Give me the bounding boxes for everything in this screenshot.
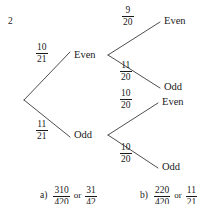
- answer-a-fraction-2: 31 42: [85, 186, 97, 204]
- node-label-odd-odd: Odd: [162, 162, 180, 173]
- fraction-numerator: 9: [122, 6, 134, 17]
- node-label-odd-level1: Odd: [74, 130, 92, 141]
- fraction-denominator: 20: [120, 72, 132, 82]
- fraction-denominator: 420: [154, 197, 170, 204]
- fraction-denominator: 20: [122, 17, 134, 27]
- answer-a: a) 310 420 or 31 42: [40, 186, 97, 204]
- fraction-numerator: 11: [120, 61, 132, 72]
- node-label-odd-even: Even: [162, 97, 184, 108]
- fraction-denominator: 21: [36, 54, 48, 64]
- tree-branch-lines: [0, 0, 220, 204]
- answer-b-tag: b): [140, 186, 148, 201]
- answer-b-fraction-2: 11 21: [186, 186, 198, 204]
- node-label-even-odd: Odd: [164, 82, 182, 93]
- branch-odd-odd: [108, 135, 158, 168]
- answer-a-tag: a): [40, 186, 47, 201]
- probability-tree-page: 2 Even Odd 10 21 11 21 Even Odd Even Odd…: [0, 0, 220, 204]
- branch-even-odd: [108, 55, 160, 88]
- fraction-numerator: 11: [186, 186, 198, 197]
- probability-root-even: 10 21: [36, 43, 48, 65]
- fraction-numerator: 10: [120, 89, 132, 100]
- probability-odd-even: 10 20: [120, 89, 132, 111]
- fraction-denominator: 42: [85, 197, 97, 204]
- answer-b-connector: or: [174, 186, 182, 200]
- branch-even-even: [108, 22, 160, 55]
- fraction-numerator: 10: [36, 43, 48, 54]
- fraction-denominator: 420: [53, 197, 69, 204]
- probability-even-even: 9 20: [122, 6, 134, 28]
- fraction-numerator: 310: [53, 186, 69, 197]
- answer-b: b) 220 420 or 11 21: [140, 186, 197, 204]
- node-label-even-even: Even: [164, 16, 186, 27]
- fraction-denominator: 20: [120, 154, 132, 164]
- answer-a-connector: or: [74, 186, 82, 200]
- branch-odd-even: [108, 103, 158, 135]
- answer-a-fraction-1: 310 420: [53, 186, 69, 204]
- fraction-numerator: 11: [36, 120, 48, 131]
- fraction-numerator: 10: [120, 143, 132, 154]
- node-label-even-level1: Even: [74, 50, 96, 61]
- probability-root-odd: 11 21: [36, 120, 48, 142]
- probability-odd-odd: 10 20: [120, 143, 132, 165]
- fraction-numerator: 31: [85, 186, 97, 197]
- fraction-denominator: 21: [36, 131, 48, 141]
- fraction-numerator: 220: [154, 186, 170, 197]
- answer-b-fraction-1: 220 420: [154, 186, 170, 204]
- probability-even-odd: 11 20: [120, 61, 132, 83]
- fraction-denominator: 20: [120, 100, 132, 110]
- fraction-denominator: 21: [186, 197, 198, 204]
